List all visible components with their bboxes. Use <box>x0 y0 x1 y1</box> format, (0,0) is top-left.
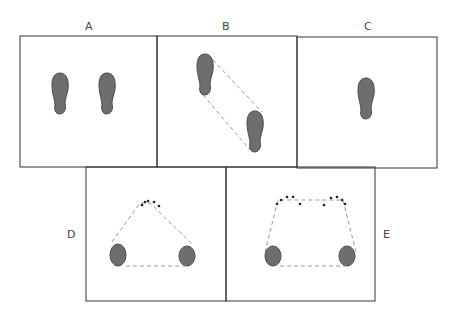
footprint-icon <box>358 78 374 119</box>
heel-pad <box>110 244 126 266</box>
heel-pad <box>339 246 355 266</box>
footprint-icon <box>52 73 68 114</box>
diagram <box>0 0 451 316</box>
heel-pad <box>265 246 281 266</box>
heel-pad <box>179 246 195 266</box>
footprint-icon <box>197 54 213 95</box>
footprint-icon <box>247 111 263 152</box>
panel-d <box>86 167 226 301</box>
panel-b <box>157 36 297 167</box>
panel-a <box>20 36 157 167</box>
panel-e <box>226 167 375 301</box>
footprint-icon <box>99 73 115 114</box>
